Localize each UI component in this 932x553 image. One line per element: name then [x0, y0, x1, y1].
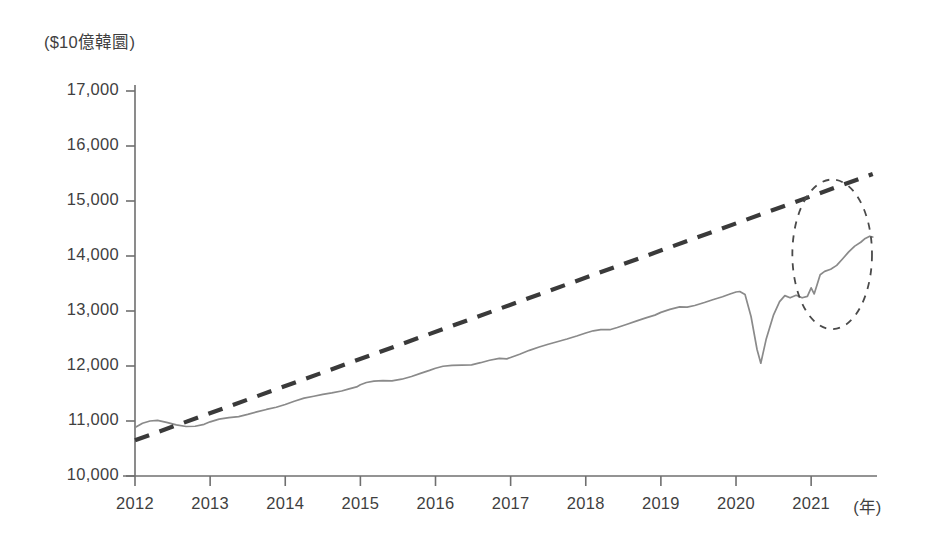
annotation-layer: [792, 180, 872, 330]
x-tick-label: 2019: [626, 494, 696, 513]
y-tick-label: 14,000: [41, 245, 119, 264]
x-tick-label: 2014: [250, 494, 320, 513]
x-axis-unit-label: (年): [853, 494, 881, 518]
x-tick-label: 2012: [100, 494, 170, 513]
chart-figure: ($10億韓圜) 10,00011,00012,00013,00014,0001…: [0, 0, 932, 553]
y-tick-label: 16,000: [41, 135, 119, 154]
y-tick-label: 11,000: [41, 410, 119, 429]
y-axis-unit-label: ($10億韓圜): [44, 29, 135, 53]
y-tick-label: 17,000: [41, 80, 119, 99]
y-tick-label: 10,000: [41, 465, 119, 484]
x-tick-label: 2013: [175, 494, 245, 513]
y-tick-label: 12,000: [41, 355, 119, 374]
x-tick-label: 2017: [476, 494, 546, 513]
x-tick-label: 2018: [551, 494, 621, 513]
series-trend: [135, 174, 873, 440]
axis-lines: [123, 85, 877, 486]
x-tick-label: 2016: [401, 494, 471, 513]
x-tick-label: 2020: [701, 494, 771, 513]
x-tick-label: 2021: [776, 494, 846, 513]
annotation-divergence-highlight: [792, 180, 872, 330]
plot-area: [0, 0, 932, 553]
data-series-layer: [135, 174, 873, 440]
y-tick-label: 15,000: [41, 190, 119, 209]
x-tick-label: 2015: [325, 494, 395, 513]
y-tick-label: 13,000: [41, 300, 119, 319]
